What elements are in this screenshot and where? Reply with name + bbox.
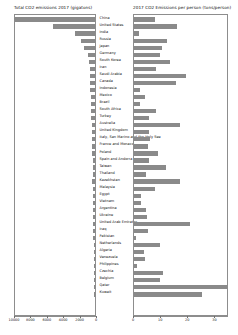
table-row [15, 16, 95, 23]
category-label-row: Mexico [97, 93, 133, 100]
category-label: France and Monaco [100, 143, 134, 147]
category-label-row: Kazakhstan [97, 177, 133, 184]
category-label-row: Philippines [97, 262, 133, 269]
table-row [134, 65, 227, 72]
category-label: South Africa [100, 108, 122, 112]
table-row [15, 185, 95, 192]
table-row [134, 115, 227, 122]
category-label-row: Indonesia [97, 85, 133, 92]
table-row [15, 263, 95, 270]
table-row [15, 37, 95, 44]
table-row [15, 242, 95, 249]
bar [134, 215, 147, 219]
bar [134, 278, 160, 282]
bar [134, 137, 150, 141]
category-label: Czechia [100, 270, 114, 274]
table-row [15, 284, 95, 291]
category-label-row: Belgium [97, 276, 133, 283]
bar [134, 292, 202, 296]
category-label-row: Egypt [97, 191, 133, 198]
bar [92, 123, 95, 127]
bar [91, 95, 95, 99]
table-row [134, 227, 227, 234]
category-label-row: Thailand [97, 170, 133, 177]
bar [134, 187, 155, 191]
category-label-row: Venezuela [97, 255, 133, 262]
table-row [134, 122, 227, 129]
category-label-row: Vietnam [97, 198, 133, 205]
left-plot-area [14, 14, 96, 316]
table-row [15, 79, 95, 86]
table-row [134, 101, 227, 108]
table-row [15, 277, 95, 284]
table-row [134, 44, 227, 51]
table-row [15, 227, 95, 234]
table-row [134, 30, 227, 37]
bar [91, 116, 95, 120]
bar [134, 222, 190, 226]
axis-tick-label: 30 [212, 318, 216, 322]
bar [134, 88, 140, 92]
table-row [15, 291, 95, 298]
bar [134, 271, 163, 275]
bar [93, 194, 95, 198]
table-row [134, 220, 227, 227]
axis-tick [63, 316, 64, 318]
right-plot-area [133, 14, 228, 316]
bar [94, 243, 95, 247]
table-row [134, 185, 227, 192]
bar [92, 144, 95, 148]
category-label: Iran [100, 66, 107, 70]
category-label: Saudi Arabia [100, 73, 122, 77]
bar [93, 165, 95, 169]
table-row [15, 58, 95, 65]
bar [134, 116, 149, 120]
category-label: Australia [100, 122, 116, 126]
bar [91, 102, 95, 106]
axis-tick [96, 316, 97, 318]
bar [134, 17, 155, 21]
category-label: Egypt [100, 193, 110, 197]
table-row [134, 206, 227, 213]
category-label-row: Brazil [97, 100, 133, 107]
table-row [134, 277, 227, 284]
right-panel-title: 2017 CO2 Emissions per person (tons/pers… [133, 5, 231, 10]
category-label-row: United Kingdom [97, 128, 133, 135]
table-row [15, 94, 95, 101]
bar [15, 17, 95, 21]
table-row [134, 213, 227, 220]
bar [134, 67, 156, 71]
axis-tick-label: 10000 [9, 318, 20, 322]
table-row [15, 192, 95, 199]
bar [134, 109, 156, 113]
bar [94, 271, 95, 275]
category-label-row: South Africa [97, 107, 133, 114]
table-row [134, 284, 227, 291]
category-label-row: Algeria [97, 248, 133, 255]
table-row [134, 256, 227, 263]
bar [93, 236, 95, 240]
axis-tick [187, 316, 188, 318]
bar [92, 179, 95, 183]
table-row [134, 291, 227, 298]
bar [93, 201, 95, 205]
bar [134, 243, 160, 247]
bar [94, 250, 95, 254]
table-row [134, 164, 227, 171]
bar [93, 229, 95, 233]
bar [134, 172, 146, 176]
bar [92, 137, 95, 141]
bar [134, 39, 167, 43]
category-label: Algeria [100, 249, 112, 253]
table-row [134, 199, 227, 206]
bar [134, 250, 144, 254]
bar [134, 24, 177, 28]
table-row [134, 192, 227, 199]
table-row [15, 213, 95, 220]
category-label: Spain and Andorra [100, 158, 133, 162]
category-label-row: Kuwait [97, 290, 133, 297]
axis-tick-label: 8000 [26, 318, 35, 322]
table-row [15, 108, 95, 115]
category-label: Japan [100, 45, 110, 49]
category-label: Venezuela [100, 256, 118, 260]
